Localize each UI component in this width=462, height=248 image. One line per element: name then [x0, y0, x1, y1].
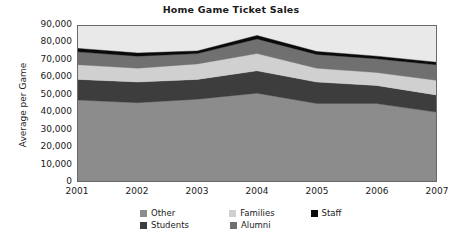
chart-container: Home Game Ticket Sales Average per Game … [0, 0, 462, 248]
x-tick-label: 2005 [297, 186, 337, 196]
x-tick-label: 2002 [117, 186, 157, 196]
legend-item-students[interactable]: Students [140, 220, 230, 230]
y-tick-label: 20,000 [24, 142, 72, 151]
legend-swatch-other [140, 210, 147, 217]
y-tick-label: 60,000 [24, 72, 72, 81]
area-series-other [78, 93, 436, 181]
legend-swatch-students [140, 222, 147, 229]
legend-label-students: Students [151, 220, 189, 230]
legend-item-families[interactable]: Families [229, 208, 310, 218]
legend-row-1: Other Families Staff [140, 208, 370, 218]
y-tick-label: 90,000 [24, 20, 72, 29]
y-tick-label: 0 [24, 177, 72, 186]
legend-label-staff: Staff [322, 208, 342, 218]
legend-item-staff[interactable]: Staff [311, 208, 370, 218]
legend-label-families: Families [240, 208, 274, 218]
stacked-area-svg [78, 26, 436, 181]
legend-item-alumni[interactable]: Alumni [230, 220, 312, 230]
y-tick-label: 30,000 [24, 125, 72, 134]
x-tick-label: 2004 [237, 186, 277, 196]
x-tick-label: 2007 [417, 186, 457, 196]
y-tick-label: 50,000 [24, 90, 72, 99]
chart-legend: Other Families Staff Students Alumni [140, 208, 370, 232]
y-tick-label: 80,000 [24, 37, 72, 46]
x-tick-label: 2001 [57, 186, 97, 196]
legend-swatch-staff [311, 210, 318, 217]
y-tick-label: 40,000 [24, 107, 72, 116]
legend-swatch-families [229, 210, 236, 217]
plot-area [77, 25, 437, 182]
x-tick-label: 2006 [357, 186, 397, 196]
y-axis-ticks: 010,00020,00030,00040,00050,00060,00070,… [22, 0, 72, 248]
x-tick-label: 2003 [177, 186, 217, 196]
legend-swatch-alumni [230, 222, 237, 229]
y-tick-label: 10,000 [24, 160, 72, 169]
legend-row-2: Students Alumni [140, 220, 370, 230]
y-tick-label: 70,000 [24, 55, 72, 64]
legend-label-other: Other [151, 208, 175, 218]
legend-item-other[interactable]: Other [140, 208, 229, 218]
legend-label-alumni: Alumni [241, 220, 271, 230]
